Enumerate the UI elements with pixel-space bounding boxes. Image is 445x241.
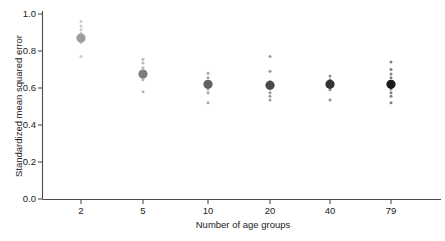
data-points-layer: [76, 20, 395, 104]
x-axis-title: Number of age groups: [196, 219, 291, 230]
data-point-mean: [325, 80, 334, 89]
data-point-small: [269, 55, 272, 58]
data-point-small: [142, 62, 145, 65]
x-tick-label-1: 5: [140, 205, 145, 216]
x-tick-label-4: 40: [325, 205, 336, 216]
x-tick-label-5: 79: [386, 205, 397, 216]
data-point-small: [390, 101, 393, 104]
data-point-mean: [203, 80, 212, 89]
data-point-mean: [138, 70, 147, 79]
data-point-small: [390, 76, 393, 79]
y-tick-label-2: 0.4: [23, 119, 36, 130]
data-point-small: [269, 70, 272, 73]
y-tick-label-1: 0.2: [23, 156, 36, 167]
data-point-small: [390, 95, 393, 98]
data-point-small: [142, 58, 145, 61]
data-point-small: [207, 101, 210, 104]
data-point-mean: [386, 80, 395, 89]
data-point-small: [390, 91, 393, 94]
data-point-small: [269, 95, 272, 98]
data-point-small: [142, 90, 145, 93]
data-point-small: [207, 91, 210, 94]
data-point-small: [329, 99, 332, 102]
y-axis-ticks: [38, 14, 43, 199]
chart-figure: 0.0 0.2 0.4 0.6 0.8 1.0 2 5 10 20 40 79 …: [0, 0, 445, 241]
data-point-small: [80, 55, 83, 58]
data-point-small: [207, 72, 210, 75]
data-point-small: [269, 99, 272, 102]
data-point-mean: [76, 33, 85, 42]
data-point-small: [207, 76, 210, 79]
data-point-small: [80, 25, 83, 28]
y-tick-label-0: 0.0: [23, 193, 36, 204]
data-point-small: [80, 28, 83, 31]
data-point-small: [80, 20, 83, 23]
y-tick-label-3: 0.6: [23, 82, 36, 93]
x-tick-label-2: 10: [203, 205, 214, 216]
x-tick-label-3: 20: [265, 205, 276, 216]
y-axis-title: Standardized mean squared error: [13, 35, 24, 177]
data-point-small: [390, 61, 393, 64]
x-axis-ticks: [81, 200, 391, 205]
data-point-small: [142, 66, 145, 69]
y-tick-label-5: 1.0: [23, 8, 36, 19]
data-point-small: [390, 68, 393, 71]
data-point-small: [329, 74, 332, 77]
data-point-mean: [265, 81, 274, 90]
y-tick-label-4: 0.8: [23, 45, 36, 56]
data-point-small: [390, 73, 393, 76]
x-tick-label-0: 2: [78, 205, 83, 216]
scatter-plot: 0.0 0.2 0.4 0.6 0.8 1.0 2 5 10 20 40 79 …: [0, 0, 445, 241]
data-point-small: [269, 91, 272, 94]
